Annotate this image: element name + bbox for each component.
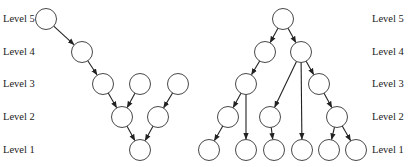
tree-node-level-1 [199,140,220,161]
edge-arrow [214,126,222,140]
tree-node-level-1 [236,140,257,161]
edge-arrow [301,62,302,139]
edge-arrow [127,126,135,140]
tree-node-level-1 [319,140,340,161]
edge-arrow [342,126,350,140]
left-label-level-5: Level 5 [3,13,35,24]
tree-node-level-3 [236,74,257,95]
right-label-level-4: Level 4 [372,46,405,57]
right-label-level-1: Level 1 [372,144,404,155]
tree-node-level-2 [327,107,348,128]
edge-arrow [88,61,97,75]
left-level-labels: Level 5 Level 4 Level 3 Level 2 Level 1 [3,13,36,155]
tree-node-level-4 [291,42,312,63]
edge-arrow [270,28,278,42]
edge-arrow [127,93,135,107]
tree-node-level-5 [273,9,294,30]
tree-node-level-1 [292,140,313,161]
right-level-labels: Level 5 Level 4 Level 3 Level 2 Level 1 [372,13,405,155]
edge-arrow [271,127,272,139]
edge-arrow [164,93,173,108]
edge-arrow [145,126,153,140]
edge-arrow [332,127,335,139]
nodes [36,9,367,161]
tree-node-level-4 [255,42,276,63]
left-label-level-3: Level 3 [3,78,35,89]
tree-node-level-3 [93,74,114,95]
tree-node-level-2 [260,107,281,128]
edge-arrow [252,61,260,75]
tree-node-level-3 [168,74,189,95]
edge-arrow [54,26,74,44]
tree-node-level-3 [130,74,151,95]
left-label-level-4: Level 4 [3,46,36,57]
tree-node-level-4 [72,42,93,63]
tree-node-level-5 [36,9,57,30]
tree-node-level-2 [218,107,239,128]
tree-node-level-1 [346,140,367,161]
edge-arrow [275,61,297,107]
tree-node-level-3 [309,74,330,95]
edge-arrow [306,61,313,74]
tree-node-level-1 [130,140,151,161]
right-label-level-5: Level 5 [372,13,404,24]
right-label-level-2: Level 2 [372,111,404,122]
right-label-level-3: Level 3 [372,78,404,89]
tree-node-level-2 [148,107,169,128]
tree-node-level-1 [264,140,285,161]
edge-arrow [324,93,332,107]
left-label-level-1: Level 1 [3,144,35,155]
tree-diagram: Level 5 Level 4 Level 3 Level 2 Level 1 … [0,0,420,167]
tree-node-level-2 [112,107,133,128]
left-label-level-2: Level 2 [3,111,35,122]
edge-arrow [108,93,116,107]
edge-arrow [288,28,296,42]
edge-arrow [233,93,241,107]
